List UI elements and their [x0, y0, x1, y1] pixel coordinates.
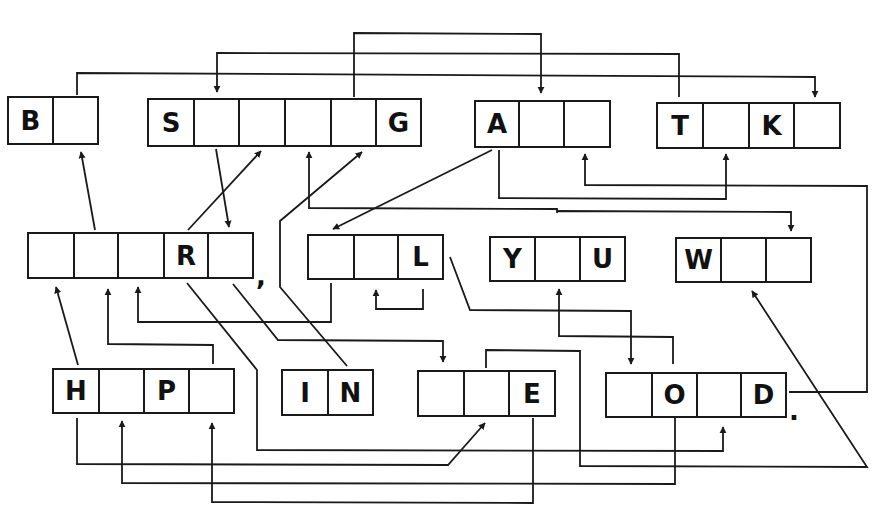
letter-cell[interactable]	[331, 99, 376, 146]
word-box-w5: R ,	[28, 233, 266, 291]
svg-text:G: G	[388, 108, 409, 138]
connector-p4-to-r2	[108, 289, 213, 364]
svg-text:W: W	[684, 245, 713, 275]
svg-text:N: N	[340, 378, 362, 408]
connector-l1-to-r3	[138, 283, 331, 322]
letter-cell[interactable]: L	[398, 235, 443, 279]
letter-cell[interactable]: W	[676, 238, 721, 282]
comma-punctuation: ,	[256, 261, 266, 291]
letter-cell[interactable]	[74, 233, 118, 278]
letter-cell[interactable]: T	[657, 103, 703, 148]
svg-text:R: R	[176, 241, 196, 271]
letter-cell[interactable]	[354, 235, 398, 279]
connector-o2-to-y2	[559, 289, 673, 364]
svg-text:H: H	[65, 376, 87, 406]
connector-g5-to-a2	[354, 33, 541, 97]
svg-text:B: B	[21, 106, 41, 136]
letter-cell[interactable]	[606, 373, 652, 417]
letter-cell[interactable]: N	[328, 370, 373, 415]
letter-cell[interactable]	[239, 99, 285, 146]
word-box-w9: H P	[53, 369, 234, 413]
svg-text:O: O	[663, 380, 685, 410]
letter-cell[interactable]	[208, 233, 253, 278]
letter-cell[interactable]: Y	[490, 237, 535, 281]
connector-r2-to-b2	[81, 152, 95, 230]
connector-r4-to-d3	[187, 283, 723, 451]
period-punctuation: .	[789, 396, 799, 426]
svg-text:Y: Y	[502, 244, 523, 274]
connector-e-to-p4	[212, 418, 533, 503]
connector-r5-to-e1	[233, 284, 443, 362]
connector-a1-to-t2	[499, 150, 726, 199]
letter-cell[interactable]	[99, 369, 144, 413]
letter-cell[interactable]: D	[741, 373, 786, 417]
word-box-w6: L	[308, 235, 443, 279]
letter-cell[interactable]	[697, 373, 741, 417]
letter-cell[interactable]: U	[580, 237, 625, 281]
letter-cell[interactable]: H	[53, 369, 99, 413]
letter-cell[interactable]	[519, 101, 564, 147]
word-box-w2: S G	[148, 99, 421, 146]
letter-cell[interactable]	[118, 233, 164, 278]
svg-text:S: S	[162, 108, 181, 138]
svg-text:E: E	[523, 379, 541, 409]
letter-cell[interactable]	[194, 99, 239, 146]
svg-text:D: D	[753, 380, 775, 410]
letter-cell[interactable]	[53, 97, 98, 144]
letter-cell[interactable]: S	[148, 99, 194, 146]
letter-cell[interactable]: B	[8, 97, 53, 144]
letter-cell[interactable]: P	[144, 369, 189, 413]
letter-cell[interactable]	[535, 237, 580, 281]
letter-cell[interactable]: O	[652, 373, 697, 417]
svg-text:T: T	[671, 111, 689, 141]
letter-cell[interactable]	[418, 371, 464, 416]
letter-cell[interactable]	[308, 235, 354, 279]
svg-text:L: L	[412, 242, 429, 272]
connector-y2-to-g4	[309, 152, 557, 210]
svg-text:U: U	[592, 244, 613, 274]
letter-cell[interactable]: K	[749, 103, 794, 148]
word-box-w3: A	[475, 101, 610, 147]
letter-cell[interactable]	[703, 103, 749, 148]
letter-cell[interactable]	[285, 99, 331, 146]
letter-cell[interactable]	[564, 101, 610, 147]
svg-text:K: K	[761, 111, 782, 141]
connector-r4-to-s3	[188, 151, 261, 230]
svg-text:I: I	[300, 378, 310, 408]
connector-l3-to-l2	[376, 289, 423, 309]
letter-cell[interactable]: E	[509, 371, 555, 416]
word-box-w11: E	[418, 371, 555, 416]
letter-cell[interactable]: G	[376, 99, 421, 146]
letter-cell[interactable]	[794, 103, 840, 148]
letter-cell[interactable]	[721, 238, 766, 282]
connector-h-to-r1	[56, 287, 78, 365]
word-box-w8: W	[676, 238, 811, 282]
letter-cell[interactable]	[766, 238, 811, 282]
connector-a1-to-l1	[333, 150, 492, 229]
svg-text:P: P	[157, 376, 176, 406]
letter-cell[interactable]: R	[164, 233, 208, 278]
connector-h-to-e2	[77, 418, 485, 465]
word-box-w1: B	[8, 97, 98, 144]
word-box-w10: I N	[282, 370, 373, 415]
letter-cell[interactable]: I	[282, 370, 328, 415]
svg-text:A: A	[487, 109, 507, 139]
connector-b2-to-t4	[77, 73, 815, 97]
word-box-w7: Y U	[490, 237, 625, 281]
letter-cell[interactable]	[189, 369, 234, 413]
word-box-w12: O D .	[606, 373, 799, 426]
letter-cell[interactable]	[28, 233, 74, 278]
connector-y2-to-w3	[557, 211, 791, 231]
word-box-w4: T K	[657, 103, 840, 148]
letter-link-diagram: B S G A T K R , L Y U W	[0, 0, 887, 525]
letter-cell[interactable]	[464, 371, 509, 416]
letter-cell[interactable]: A	[475, 101, 519, 147]
